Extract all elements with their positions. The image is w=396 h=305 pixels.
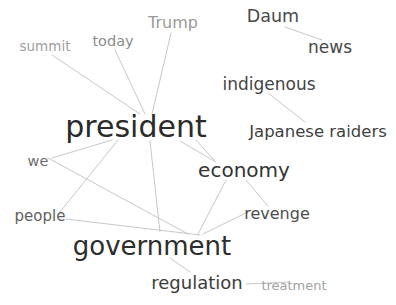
graph-node-summit[interactable]: summit [20, 40, 71, 54]
word-network-graph: summittodayTrumpDaumnewsindigenouspresid… [0, 0, 396, 305]
node-layer: summittodayTrumpDaumnewsindigenouspresid… [0, 0, 396, 305]
graph-node-daum[interactable]: Daum [247, 8, 299, 26]
graph-node-trump[interactable]: Trump [148, 15, 198, 31]
graph-node-government[interactable]: government [73, 233, 232, 259]
graph-node-we[interactable]: we [28, 154, 49, 169]
graph-node-indigenous[interactable]: indigenous [222, 76, 315, 93]
graph-node-news[interactable]: news [308, 39, 352, 56]
graph-node-president[interactable]: president [65, 112, 206, 142]
graph-node-japanese_raiders[interactable]: Japanese raiders [249, 124, 387, 141]
graph-node-economy[interactable]: economy [198, 160, 290, 180]
graph-node-revenge[interactable]: revenge [244, 206, 310, 222]
graph-node-people[interactable]: people [15, 209, 66, 224]
graph-node-regulation[interactable]: regulation [151, 274, 242, 292]
graph-node-treatment[interactable]: treatment [261, 279, 326, 292]
graph-node-today[interactable]: today [92, 34, 133, 49]
